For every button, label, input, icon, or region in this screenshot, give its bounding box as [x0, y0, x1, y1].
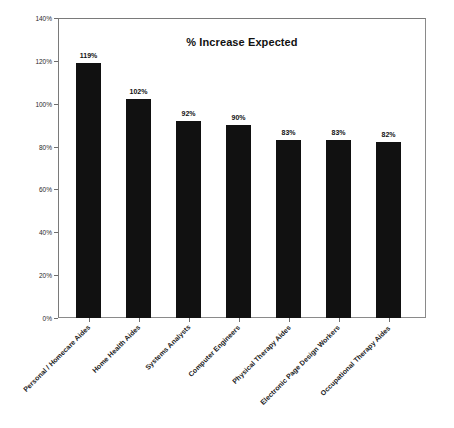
bar-rect [126, 99, 151, 318]
x-axis-tick-mark [389, 318, 390, 322]
bar-value-label: 119% [80, 52, 98, 59]
bar-value-label: 92% [181, 110, 195, 117]
bar-rect [276, 140, 301, 318]
bar-value-label: 102% [130, 88, 148, 95]
x-axis-tick-mark [339, 318, 340, 322]
bar [176, 18, 201, 318]
bar-rect [326, 140, 351, 318]
bar [126, 18, 151, 318]
bar-value-label: 83% [331, 129, 345, 136]
x-axis-tick-mark [189, 318, 190, 322]
x-axis-tick-mark [139, 318, 140, 322]
bar-value-label: 90% [231, 114, 245, 121]
bar-rect [226, 125, 251, 318]
bar [76, 18, 101, 318]
bar [376, 18, 401, 318]
x-axis-category-label: Systems Analysts [144, 324, 192, 372]
bars-layer: 119%102%92%90%83%83%82% [0, 0, 454, 318]
bar [326, 18, 351, 318]
bar-rect [176, 121, 201, 318]
bar-chart: % Increase Expected 0%20%40%60%80%100%12… [0, 0, 454, 428]
bar-value-label: 83% [281, 129, 295, 136]
x-axis-category-label: Personal / Homecare Aides [22, 324, 91, 393]
bar-rect [376, 142, 401, 318]
x-axis-category-label: Home Health Aides [91, 324, 141, 374]
x-axis-category-label: Electronic Page Design Workers [259, 324, 341, 406]
x-axis-tick-mark [239, 318, 240, 322]
x-axis-tick-mark [289, 318, 290, 322]
bar-rect [76, 63, 101, 318]
bar [226, 18, 251, 318]
x-axis-tick-mark [89, 318, 90, 322]
bar-value-label: 82% [381, 131, 395, 138]
y-axis-tick-mark [54, 318, 58, 319]
bar [276, 18, 301, 318]
x-axis-category-label: Computer Engineers [187, 324, 241, 378]
